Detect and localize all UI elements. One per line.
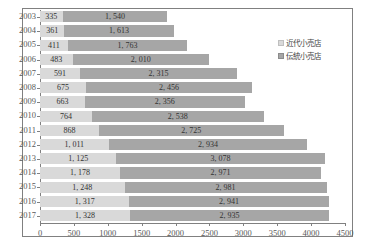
bar-value-label-modern: 483 — [40, 54, 73, 65]
bar-segment-modern[interactable]: 1, 125 — [40, 153, 116, 164]
bar-row: 20171, 3282, 935 — [0, 209, 371, 223]
bar-value-label-traditional: 2, 356 — [85, 96, 245, 107]
bar-value-label-traditional: 2, 725 — [99, 125, 284, 136]
y-axis-tick-label: 2011 — [0, 124, 36, 138]
bar-row: 20096632, 356 — [0, 95, 371, 109]
bar-segment-modern[interactable]: 361 — [40, 25, 64, 36]
y-axis-tick-label: 2013 — [0, 152, 36, 166]
bar-value-label-modern: 663 — [40, 96, 85, 107]
bar-value-label-traditional: 2, 941 — [129, 196, 328, 207]
x-axis-tick-mark — [40, 223, 41, 226]
y-axis-tick-label: 2004 — [0, 24, 36, 38]
legend-item-traditional[interactable]: 伝統小売店 — [278, 50, 321, 61]
legend-swatch-modern-icon — [278, 40, 284, 46]
bar-segment-traditional[interactable]: 2, 971 — [120, 167, 321, 178]
y-axis-tick-label: 2008 — [0, 81, 36, 95]
bar-segment-modern[interactable]: 591 — [40, 68, 80, 79]
bar-segment-modern[interactable]: 1, 328 — [40, 210, 130, 221]
bar-value-label-traditional: 3, 078 — [116, 153, 325, 164]
bar-segment-traditional[interactable]: 3, 078 — [116, 153, 325, 164]
bar-segment-traditional[interactable]: 2, 725 — [99, 125, 284, 136]
bar-row: 20161, 3172, 941 — [0, 195, 371, 209]
bar-segment-modern[interactable]: 1, 011 — [40, 139, 109, 150]
bar-value-label-traditional: 2, 971 — [120, 167, 321, 178]
bar-row: 20131, 1253, 078 — [0, 152, 371, 166]
y-axis-tick-label: 2014 — [0, 166, 36, 180]
bar-row: 20121, 0112, 934 — [0, 138, 371, 152]
legend-item-modern[interactable]: 近代小売店 — [278, 37, 321, 48]
bar-value-label-modern: 868 — [40, 125, 99, 136]
bar-segment-traditional[interactable]: 2, 010 — [73, 54, 209, 65]
bar-segment-modern[interactable]: 764 — [40, 111, 92, 122]
bar-row: 20043611, 613 — [0, 24, 371, 38]
bar-segment-traditional[interactable]: 2, 538 — [92, 111, 264, 122]
bar-row: 20151, 2482, 981 — [0, 180, 371, 194]
chart-legend: 近代小売店 伝統小売店 — [278, 37, 321, 63]
bar-value-label-modern: 335 — [40, 11, 63, 22]
y-axis-tick-label: 2017 — [0, 209, 36, 223]
bar-value-label-traditional: 1, 613 — [64, 25, 173, 36]
bar-segment-modern[interactable]: 663 — [40, 96, 85, 107]
bar-segment-traditional[interactable]: 2, 981 — [125, 182, 327, 193]
y-axis-tick-label: 2007 — [0, 67, 36, 81]
bar-value-label-modern: 1, 011 — [40, 139, 109, 150]
y-axis-tick-label: 2005 — [0, 38, 36, 52]
bar-segment-traditional[interactable]: 2, 941 — [129, 196, 328, 207]
bar-segment-traditional[interactable]: 2, 935 — [130, 210, 329, 221]
bar-row: 20075912, 315 — [0, 67, 371, 81]
bar-row: 20033351, 540 — [0, 10, 371, 24]
bar-segment-traditional[interactable]: 2, 456 — [86, 82, 252, 93]
x-axis-tick-mark — [345, 223, 346, 226]
bar-segment-traditional[interactable]: 1, 540 — [63, 11, 167, 22]
bar-value-label-modern: 1, 317 — [40, 196, 129, 207]
bar-value-label-traditional: 2, 981 — [125, 182, 327, 193]
bar-value-label-modern: 1, 125 — [40, 153, 116, 164]
x-axis-line — [40, 223, 346, 224]
x-axis-tick-mark — [243, 223, 244, 226]
bar-value-label-traditional: 2, 456 — [86, 82, 252, 93]
bar-value-label-modern: 675 — [40, 82, 86, 93]
bar-segment-modern[interactable]: 1, 317 — [40, 196, 129, 207]
bar-segment-modern[interactable]: 675 — [40, 82, 86, 93]
bar-value-label-traditional: 1, 540 — [63, 11, 167, 22]
bar-segment-traditional[interactable]: 2, 934 — [109, 139, 308, 150]
bar-segment-modern[interactable]: 483 — [40, 54, 73, 65]
y-axis-tick-label: 2015 — [0, 180, 36, 194]
bar-value-label-modern: 411 — [40, 40, 68, 51]
bar-segment-traditional[interactable]: 1, 763 — [68, 40, 187, 51]
bar-row: 20118682, 725 — [0, 124, 371, 138]
bar-row: 20086752, 456 — [0, 81, 371, 95]
legend-swatch-traditional-icon — [278, 53, 284, 59]
x-axis-tick-mark — [176, 223, 177, 226]
bar-value-label-modern: 764 — [40, 111, 92, 122]
chart-plot-area: 20033351, 54020043611, 61320054111, 7632… — [0, 0, 371, 252]
bar-value-label-traditional: 2, 315 — [80, 68, 237, 79]
bar-segment-modern[interactable]: 411 — [40, 40, 68, 51]
bar-segment-traditional[interactable]: 2, 356 — [85, 96, 245, 107]
x-axis-tick-mark — [209, 223, 210, 226]
x-axis-tick-label: 4500 — [325, 228, 365, 238]
bar-segment-modern[interactable]: 1, 248 — [40, 182, 125, 193]
legend-label-modern: 近代小売店 — [286, 37, 321, 48]
bar-value-label-traditional: 2, 010 — [73, 54, 209, 65]
y-axis-tick-label: 2010 — [0, 109, 36, 123]
bar-row: 20141, 1782, 971 — [0, 166, 371, 180]
bar-value-label-traditional: 2, 538 — [92, 111, 264, 122]
y-axis-tick-label: 2006 — [0, 53, 36, 67]
legend-label-traditional: 伝統小売店 — [286, 50, 321, 61]
bar-segment-traditional[interactable]: 1, 613 — [64, 25, 173, 36]
bar-value-label-modern: 591 — [40, 68, 80, 79]
x-axis-tick-mark — [108, 223, 109, 226]
bar-value-label-traditional: 2, 935 — [130, 210, 329, 221]
y-axis-tick-label: 2012 — [0, 138, 36, 152]
bar-segment-modern[interactable]: 868 — [40, 125, 99, 136]
bar-segment-modern[interactable]: 1, 178 — [40, 167, 120, 178]
bar-value-label-modern: 1, 178 — [40, 167, 120, 178]
bar-segment-modern[interactable]: 335 — [40, 11, 63, 22]
bar-row: 20107642, 538 — [0, 109, 371, 123]
bar-segment-traditional[interactable]: 2, 315 — [80, 68, 237, 79]
x-axis-tick-mark — [74, 223, 75, 226]
x-axis-tick-mark — [277, 223, 278, 226]
bar-value-label-modern: 361 — [40, 25, 64, 36]
bar-value-label-modern: 1, 328 — [40, 210, 130, 221]
